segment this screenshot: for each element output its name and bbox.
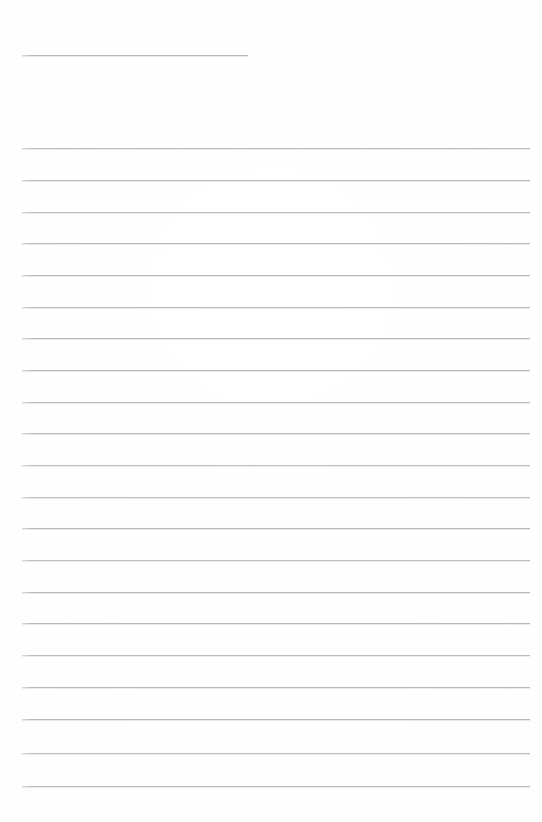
- paper-background: [0, 0, 542, 822]
- ruled-line: [22, 307, 530, 308]
- ruled-line: [22, 275, 530, 276]
- scan-speck-artifact: [27, 1, 34, 7]
- ruled-line: [22, 592, 530, 593]
- ruled-line: [22, 243, 530, 244]
- ruled-line: [22, 655, 530, 656]
- ruled-line: [22, 148, 530, 149]
- ruled-line: [22, 687, 530, 688]
- ruled-line: [22, 623, 530, 624]
- name-date-rule: [22, 55, 248, 56]
- ruled-line: [22, 370, 530, 371]
- ruled-line: [22, 753, 530, 754]
- ruled-line: [22, 786, 530, 787]
- ruled-line: [22, 180, 530, 181]
- ruled-line: [22, 528, 530, 529]
- ruled-line: [22, 465, 530, 466]
- ruled-line: [22, 338, 530, 339]
- scanned-page: [0, 0, 542, 822]
- ruled-line: [22, 719, 530, 720]
- ruled-line: [22, 560, 530, 561]
- ruled-line: [22, 402, 530, 403]
- ruled-line: [22, 433, 530, 434]
- ruled-line: [22, 497, 530, 498]
- ruled-line: [22, 212, 530, 213]
